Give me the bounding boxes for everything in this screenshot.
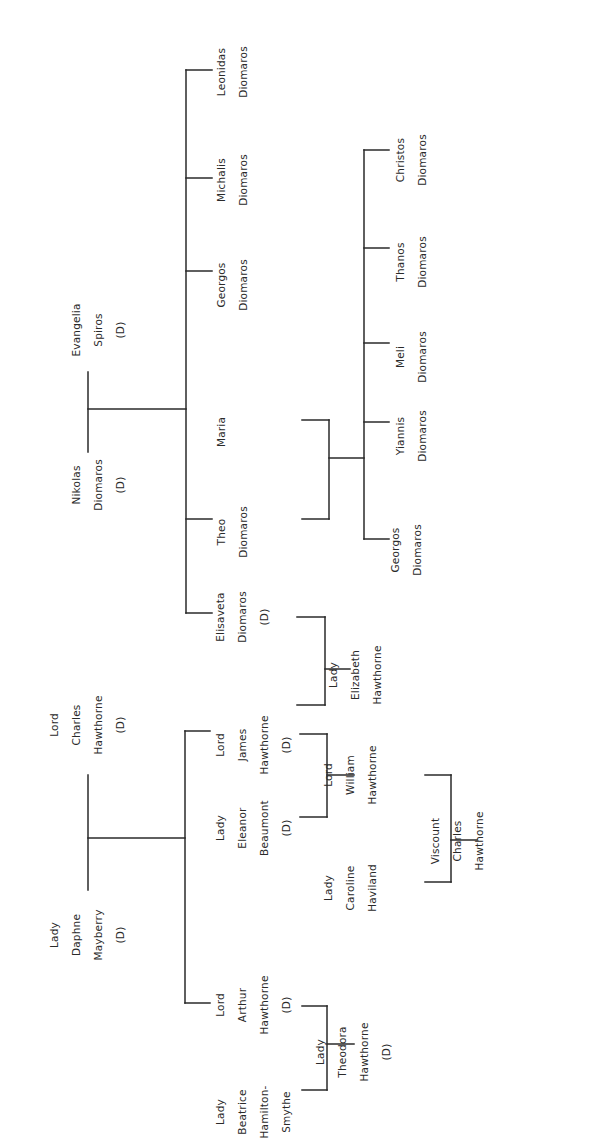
person-lord-james-hawthorne: LordJamesHawthorne(D) xyxy=(209,715,297,774)
person-maria: Maria xyxy=(210,417,232,447)
person-lady-theodora-hawthorne: LadyTheodoraHawthorne(D) xyxy=(309,1022,397,1081)
person-michalis-diomaros: MichalisDiomaros xyxy=(210,154,254,206)
person-thanos-diomaros: ThanosDiomaros xyxy=(389,236,433,288)
person-evangelia-spiros: EvangeliaSpiros(D) xyxy=(65,303,131,356)
person-lady-elizabeth-hawthorne: LadyElizabethHawthorne xyxy=(322,645,388,704)
person-lady-eleanor-beaumont: LadyEleanorBeaumont(D) xyxy=(209,800,297,856)
person-theo-diomaros: TheoDiomaros xyxy=(210,506,254,558)
person-lord-arthur-hawthorne: LordArthurHawthorne(D) xyxy=(209,975,297,1034)
person-lord-charles-hawthorne: LordCharlesHawthorne(D) xyxy=(43,695,131,754)
person-christos-diomaros: ChristosDiomaros xyxy=(389,134,433,186)
person-lord-william-hawthorne: LordWilliamHawthorne xyxy=(317,745,383,804)
person-viscount-charles-hawthorne: ViscountCharlesHawthorne xyxy=(424,811,490,870)
family-tree-diagram: LeonidasDiomaros MichalisDiomaros Georgo… xyxy=(0,0,589,1148)
person-georgos-diomaros-younger: GeorgosDiomaros xyxy=(384,524,428,576)
person-yiannis-diomaros: YiannisDiomaros xyxy=(389,410,433,462)
person-nikolas-diomaros: NikolasDiomaros(D) xyxy=(65,459,131,511)
person-leonidas-diomaros: LeonidasDiomaros xyxy=(210,46,254,98)
person-lady-daphne-mayberry: LadyDaphneMayberry(D) xyxy=(43,909,131,960)
person-lady-caroline-haviland: LadyCarolineHaviland xyxy=(317,864,383,912)
person-elisaveta-diomaros: ElisavetaDiomaros(D) xyxy=(209,591,275,643)
person-lady-beatrice-hamilton-smythe: LadyBeatriceHamilton-Smythe xyxy=(209,1085,297,1138)
person-georgos-diomaros-elder: GeorgosDiomaros xyxy=(210,259,254,311)
person-meli-diomaros: MeliDiomaros xyxy=(389,331,433,383)
